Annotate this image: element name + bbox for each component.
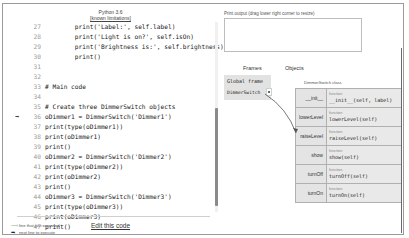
method-signature: lowerLevel(self) [329, 116, 401, 123]
known-limitations-link[interactable]: [known limitations] [7, 15, 214, 21]
method-value: functionlowerLevel(self) [327, 108, 402, 127]
class-method-row: turnOnfunctionturnOn(self) [296, 184, 402, 203]
global-frame-title: Global frame [227, 78, 263, 84]
line-number: 43 [27, 182, 41, 192]
line-source: print(oDimmer2) [45, 172, 101, 182]
legend-next: ➡next line to execute [11, 229, 60, 236]
method-signature: raiseLevel(self) [329, 135, 401, 142]
output-panel: Print output (drag lower right corner to… [221, 8, 403, 234]
line-number: 38 [27, 132, 41, 142]
method-value: functionturnOff(self) [327, 165, 402, 184]
line-source: print('Light is on?', self.isOn) [45, 32, 194, 42]
line-source: oDimmer1 = DimmerSwitch('Dimmer1') [45, 112, 172, 122]
code-line: 29 print('Brightness is:', self.brightne… [7, 42, 210, 52]
line-number: 34 [27, 92, 41, 102]
code-header: Python 3.6 [known limitations] [7, 9, 214, 21]
visualizer-frame: Python 3.6 [known limitations] 27 print(… [2, 3, 404, 235]
panel-edge [401, 48, 402, 233]
line-number: 46 [27, 212, 41, 222]
line-source: print(type(oDimmer2)) [45, 162, 123, 172]
line-number: 27 [27, 22, 41, 32]
method-value: functionturnOn(self) [327, 184, 402, 203]
prev-line-arrow-icon: ⟶ [11, 222, 19, 229]
code-line: 39print() [7, 142, 210, 152]
frames-heading: Frames [243, 65, 262, 71]
legend-next-label: next line to execute [19, 230, 55, 235]
method-value: function__init__(self, label) [327, 89, 402, 108]
line-number: 29 [27, 42, 41, 52]
code-line: 28 print('Light is on?', self.isOn) [7, 32, 210, 42]
code-line-current: ➡36oDimmer1 = DimmerSwitch('Dimmer1') [7, 112, 210, 122]
arrow-legend: ⟶line that just executed ➡next line to e… [11, 222, 60, 236]
code-line: 30 print() [7, 52, 210, 62]
code-line: 27 print('Label:', self.label) [7, 22, 210, 32]
line-number: 36 [27, 112, 41, 122]
code-line: 31 [7, 62, 210, 72]
method-signature: turnOn(self) [329, 192, 401, 199]
print-output-box[interactable] [224, 18, 362, 52]
line-number: 33 [27, 82, 41, 92]
code-line: 46print(oDimmer3) [7, 212, 210, 222]
code-line: 43print() [7, 182, 210, 192]
line-source: oDimmer2 = DimmerSwitch('Dimmer2') [45, 152, 172, 162]
line-source: print(type(oDimmer1)) [45, 122, 123, 132]
method-name: turnOff [296, 165, 327, 184]
class-method-row: showfunctionshow(self) [296, 146, 402, 165]
class-object-label: DimmerSwitch class [304, 80, 342, 85]
line-number: 31 [27, 62, 41, 72]
code-divider [17, 216, 210, 217]
line-number: 42 [27, 172, 41, 182]
class-method-row: __init__function__init__(self, label) [296, 89, 402, 108]
code-line: 35# Create three DimmerSwitch objects [7, 102, 210, 112]
method-signature: __init__(self, label) [329, 97, 401, 104]
code-line: 32 [7, 72, 210, 82]
next-line-arrow-icon: ➡ [15, 112, 27, 122]
pointer-dot-icon [266, 88, 272, 96]
class-object-table: __init__function__init__(self, label) lo… [295, 88, 402, 203]
method-name: turnOn [296, 184, 327, 203]
code-line: 42print(oDimmer2) [7, 172, 210, 182]
line-source: print('Brightness is:', self.brightness) [45, 42, 224, 52]
method-name: raiseLevel [296, 127, 327, 146]
method-name: lowerLevel [296, 108, 327, 127]
method-name: show [296, 146, 327, 165]
line-number: 45 [27, 202, 41, 212]
global-frame: Global frame DimmerSwitch [224, 75, 271, 100]
line-number: 32 [27, 72, 41, 82]
line-source: # Main code [45, 82, 86, 92]
line-source: print() [45, 52, 101, 62]
line-source: oDimmer3 = DimmerSwitch('Dimmer3') [45, 192, 172, 202]
code-line: 40oDimmer2 = DimmerSwitch('Dimmer2') [7, 152, 210, 162]
line-number: 37 [27, 122, 41, 132]
class-method-row: turnOfffunctionturnOff(self) [296, 165, 402, 184]
code-line: 33# Main code [7, 82, 210, 92]
code-line: 38print(oDimmer1) [7, 132, 210, 142]
line-number: 44 [27, 192, 41, 202]
line-number: 40 [27, 152, 41, 162]
code-line: 34 [7, 92, 210, 102]
legend-prev: ⟶line that just executed [11, 222, 60, 229]
line-source: print() [45, 142, 71, 152]
code-panel: Python 3.6 [known limitations] 27 print(… [7, 8, 214, 234]
class-method-row: raiseLevelfunctionraiseLevel(self) [296, 127, 402, 146]
line-source: print() [45, 182, 71, 192]
line-number: 35 [27, 102, 41, 112]
method-signature: show(self) [329, 154, 401, 161]
print-output-label: Print output (drag lower right corner to… [224, 11, 315, 16]
objects-heading: Objects [285, 65, 304, 71]
code-line: 44oDimmer3 = DimmerSwitch('Dimmer3') [7, 192, 210, 202]
code-scrollbar-thumb[interactable] [215, 108, 218, 206]
next-line-arrow-icon: ➡ [11, 229, 19, 236]
line-number: 41 [27, 162, 41, 172]
method-signature: turnOff(self) [329, 173, 401, 180]
line-source: print(oDimmer1) [45, 132, 101, 142]
code-line: 41print(type(oDimmer2)) [7, 162, 210, 172]
method-name: __init__ [296, 89, 327, 108]
frame-variable-name: DimmerSwitch [227, 90, 260, 95]
code-listing: 27 print('Label:', self.label) 28 print(… [7, 22, 210, 232]
line-number: 28 [27, 32, 41, 42]
method-value: functionshow(self) [327, 146, 402, 165]
legend-prev-label: line that just executed [19, 223, 60, 228]
line-source: print(oDimmer3) [45, 212, 101, 222]
line-source: # Create three DimmerSwitch objects [45, 102, 175, 112]
